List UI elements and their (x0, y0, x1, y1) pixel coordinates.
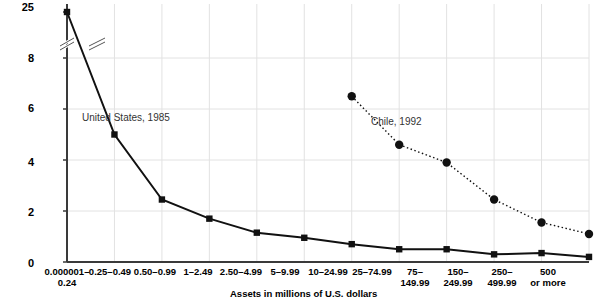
y-axis-tick-label: 4 (0, 157, 34, 168)
data-point-marker (491, 251, 497, 257)
x-axis-tick-label: 500 or more (504, 266, 592, 288)
series-line-united-states (67, 12, 589, 257)
data-point-marker (538, 250, 544, 256)
y-axis-tick-label: 6 (0, 103, 34, 114)
data-point-marker (396, 246, 402, 252)
data-point-marker (395, 141, 403, 149)
x-axis-title: Assets in millions of U.S. dollars (230, 288, 377, 299)
y-axis-tick-label: 25 (0, 2, 34, 13)
data-point-marker (206, 215, 212, 221)
data-point-marker (254, 229, 260, 235)
series-label-chile: Chile, 1992 (371, 116, 422, 127)
data-point-marker (443, 246, 449, 252)
data-point-marker (159, 196, 165, 202)
y-axis-tick-label: 2 (0, 207, 34, 218)
axis-break-symbol-secondary (89, 38, 105, 50)
data-point-marker (348, 92, 356, 100)
data-point-marker (111, 131, 117, 137)
data-point-marker (301, 235, 307, 241)
data-point-marker (490, 195, 498, 203)
data-point-marker (586, 254, 592, 260)
data-point-marker (585, 230, 593, 238)
data-point-marker (537, 218, 545, 226)
data-point-marker (64, 9, 70, 15)
chart-plot-area (0, 0, 594, 303)
y-axis-tick-label: 8 (0, 53, 34, 64)
chart-container: 0 2 4 6 8 25 0.000001– 0.24 0.25–0.49 0.… (0, 0, 594, 303)
series-label-united-states: United States, 1985 (82, 112, 170, 123)
data-point-marker (349, 241, 355, 247)
data-point-marker (442, 158, 450, 166)
